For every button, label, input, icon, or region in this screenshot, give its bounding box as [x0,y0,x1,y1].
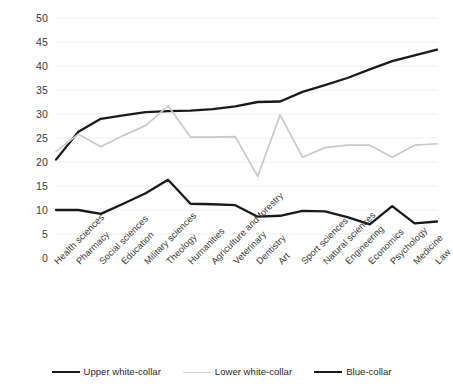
y-axis-tick-label: 45 [22,37,48,48]
legend-line-swatch [314,371,342,373]
legend-label: Lower white-collar [215,367,292,377]
legend-line-swatch [52,371,80,373]
y-axis-tick-label: 15 [22,181,48,192]
legend-item[interactable]: Lower white-collar [183,367,292,377]
legend-label: Blue-collar [346,367,391,377]
y-axis-tick-label: 35 [22,85,48,96]
legend-line-swatch [183,372,211,373]
y-axis-tick-label: 20 [22,157,48,168]
legend-item[interactable]: Blue-collar [314,367,391,377]
y-axis-tick-label: 25 [22,133,48,144]
y-axis-tick-label: 10 [22,205,48,216]
legend-item[interactable]: Upper white-collar [52,367,161,377]
y-axis-tick-label: 50 [22,13,48,24]
x-axis-category-labels: Health sciencesPharmacySocial sciencesEd… [0,258,443,358]
y-axis-tick-label: 5 [22,229,48,240]
y-axis-tick-label: 30 [22,109,48,120]
y-axis-tick-label: 40 [22,61,48,72]
chart-legend: Upper white-collarLower white-collarBlue… [0,361,443,383]
legend-label: Upper white-collar [84,367,161,377]
